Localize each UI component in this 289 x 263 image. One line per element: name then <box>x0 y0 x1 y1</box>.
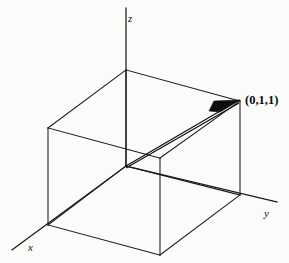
cube-edge-bottom-front-right <box>160 195 240 255</box>
z-axis-label: z <box>127 12 133 24</box>
cube-edge-bottom-back-left <box>48 166 126 225</box>
vector-shaft-lower <box>126 103 239 168</box>
cube-edge-top-front-left <box>48 128 160 158</box>
vector-group <box>126 100 240 168</box>
vector-point-label: (0,1,1) <box>245 93 278 107</box>
y-axis-label: y <box>263 207 269 219</box>
figure-canvas: z y x (0,1,1) <box>0 0 289 263</box>
cube-edge-top-back-right <box>126 70 240 101</box>
x-axis-label: x <box>27 241 33 253</box>
cube-edge-bottom-front-left <box>48 225 160 255</box>
cube-vector-diagram: z y x (0,1,1) <box>0 0 289 263</box>
vector-arrowhead <box>209 100 240 112</box>
cube-edge-back-top-left <box>48 70 126 128</box>
cube-edge-bottom-back-right <box>126 166 240 195</box>
cube-group <box>48 70 240 255</box>
